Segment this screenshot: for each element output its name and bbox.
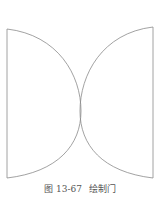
figure-caption: 图 13-67绘制门 <box>0 182 160 195</box>
left-door <box>7 29 81 178</box>
figure-title: 绘制门 <box>89 184 116 194</box>
door-drawing <box>0 0 160 180</box>
figure-number: 图 13-67 <box>44 184 82 194</box>
left-door-swing-arc <box>7 29 81 178</box>
right-door-swing-arc <box>80 27 153 178</box>
right-door <box>80 27 153 178</box>
